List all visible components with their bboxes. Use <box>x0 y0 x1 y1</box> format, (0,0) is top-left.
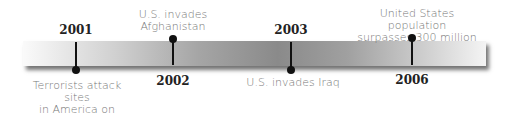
event-label: United States population surpasses 300 m… <box>352 8 482 44</box>
marker-stem <box>290 42 292 69</box>
marker-stem <box>172 39 174 65</box>
event-label-line: Afghanistan <box>133 21 213 33</box>
event-label-line: United States population <box>352 8 482 32</box>
year-label: 2001 <box>51 23 101 37</box>
timeline-bar <box>23 41 486 66</box>
year-label: 2006 <box>387 73 437 87</box>
marker-dot <box>72 66 80 74</box>
year-label: 2003 <box>266 23 316 37</box>
event-label: U.S. invades Afghanistan <box>133 9 213 33</box>
event-label: Terrorists attack sites in America on Se… <box>22 80 132 116</box>
year-label: 2002 <box>148 74 198 88</box>
event-label-line: Terrorists attack sites <box>22 80 132 104</box>
marker-stem <box>75 42 77 69</box>
marker-stem <box>411 38 413 65</box>
event-label: U.S. invades Iraq <box>238 77 348 89</box>
event-label-line: surpasses 300 million <box>352 32 482 44</box>
marker-dot <box>287 66 295 74</box>
event-label-line: U.S. invades Iraq <box>238 77 348 89</box>
